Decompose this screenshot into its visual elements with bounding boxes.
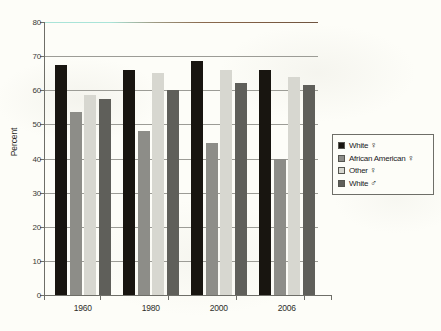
legend-swatch-icon-0: [338, 142, 345, 149]
male-symbol-3: ♂: [370, 179, 377, 188]
clipped-caption-strip: [0, 317, 441, 331]
bar-2000-series-2: [220, 70, 232, 295]
legend-swatch-icon-1: [338, 155, 345, 162]
legend-label-1: African American: [349, 154, 405, 163]
y-tick-label-20: 20: [33, 222, 42, 231]
x-axis-line: [44, 295, 332, 296]
female-symbol-0: ♀: [370, 141, 377, 150]
y-tick-label-80: 80: [33, 18, 42, 27]
x-tick-label-2000: 2000: [210, 303, 228, 313]
bar-1960-series-3: [99, 99, 111, 295]
legend-item-3[interactable]: White♂: [338, 177, 429, 189]
y-tick-label-60: 60: [33, 86, 42, 95]
x-tick-5: [331, 295, 332, 300]
chart-legend: White♀African American♀Other♀White♂: [332, 134, 434, 195]
legend-item-0[interactable]: White♀: [338, 140, 429, 152]
gridline-80: [45, 22, 318, 23]
bar-2000-series-3: [235, 83, 247, 295]
bar-2006-series-2: [288, 77, 300, 295]
clipped-caption-text: [66, 317, 171, 325]
female-symbol-2: ♀: [370, 166, 377, 175]
plot-area: 01020304050607080 1960198020002006: [45, 22, 318, 295]
x-tick-label-1980: 1980: [142, 303, 160, 313]
gridline-60: [45, 90, 318, 91]
bar-2000-series-1: [206, 143, 218, 295]
y-tick-label-30: 30: [33, 188, 42, 197]
y-tick-label-50: 50: [33, 120, 42, 129]
x-tick-1: [100, 295, 101, 300]
bar-2006-series-0: [259, 70, 271, 295]
x-tick-4: [304, 295, 305, 300]
x-tick-label-1960: 1960: [74, 303, 92, 313]
chart-figure: Percent 01020304050607080 19601980200020…: [0, 0, 441, 331]
bar-1980-series-0: [123, 70, 135, 295]
y-axis-title: Percent: [9, 128, 19, 157]
legend-label-2: Other: [349, 166, 368, 175]
legend-swatch-icon-3: [338, 180, 345, 187]
y-tick-label-0: 0: [37, 291, 41, 300]
x-tick-2: [168, 295, 169, 300]
legend-item-2[interactable]: Other♀: [338, 165, 429, 177]
y-tick-label-40: 40: [33, 154, 42, 163]
bar-1980-series-3: [167, 90, 179, 295]
x-tick-label-2006: 2006: [278, 303, 296, 313]
legend-item-1[interactable]: African American♀: [338, 152, 429, 164]
x-tick-3: [236, 295, 237, 300]
legend-label-0: White: [349, 141, 368, 150]
legend-swatch-icon-2: [338, 167, 345, 174]
bar-2006-series-3: [303, 85, 315, 295]
y-tick-label-70: 70: [33, 52, 42, 61]
bar-1960-series-1: [70, 112, 82, 295]
bar-2006-series-1: [274, 159, 286, 296]
bar-2000-series-0: [191, 61, 203, 295]
x-tick-0: [44, 295, 45, 300]
gridline-70: [45, 56, 318, 57]
female-symbol-1: ♀: [407, 154, 414, 163]
y-tick-label-10: 10: [33, 256, 42, 265]
bar-1960-series-2: [84, 95, 96, 295]
bar-1980-series-1: [138, 131, 150, 295]
bar-1960-series-0: [55, 65, 67, 295]
legend-label-3: White: [349, 179, 368, 188]
bar-1980-series-2: [152, 73, 164, 295]
